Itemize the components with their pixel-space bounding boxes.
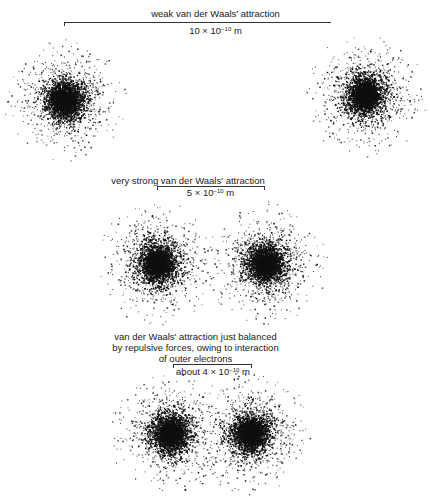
atom-cloud-balanced-right: [185, 368, 315, 497]
distance-tick-left-weak: [64, 22, 65, 26]
atom-cloud-strong-right: [200, 198, 330, 328]
distance-label-weak: 10 × 10−10 m: [100, 24, 331, 36]
distance-line-weak: [64, 22, 331, 23]
caption-weak: weak van der Waals' attraction: [100, 8, 331, 19]
caption-balanced-line-3: of outer electrons: [100, 353, 331, 364]
caption-very-strong: very strong van der Waals' attraction: [100, 175, 331, 186]
distance-label-very-strong: 5 × 10−10 m: [157, 186, 264, 198]
caption-balanced-line-1: van der Waals' attraction just balanced: [100, 331, 331, 342]
atom-cloud-weak-left: [0, 35, 130, 165]
atom-cloud-weak-right: [300, 30, 430, 160]
distance-tick-right-very-strong: [264, 186, 265, 190]
caption-balanced-line-2: by repulsive forces, owing to interactio…: [100, 342, 331, 353]
